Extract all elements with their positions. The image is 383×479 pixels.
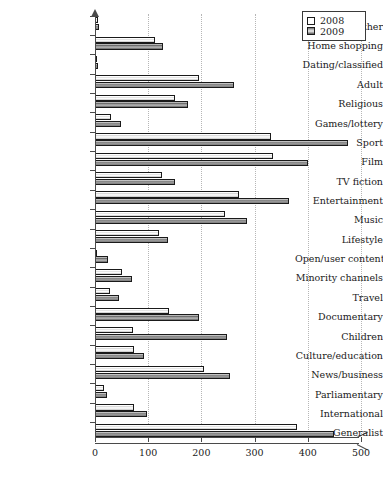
- bar-2009-music: [95, 218, 247, 224]
- category-label-dating-classified: Dating/classified: [295, 61, 383, 71]
- bar-2009-tv-fiction: [95, 179, 175, 185]
- y-tick-18: [90, 364, 95, 365]
- x-tick-label-0: 0: [92, 447, 98, 458]
- category-label-international: International: [295, 409, 383, 419]
- y-tick-7: [90, 151, 95, 152]
- y-axis-line: [95, 14, 96, 442]
- bar-2009-children: [95, 334, 227, 340]
- category-label-adult: Adult: [295, 80, 383, 90]
- y-tick-1: [90, 35, 95, 36]
- y-tick-8: [90, 170, 95, 171]
- x-tick-100: [148, 437, 149, 442]
- bar-2008-film: [95, 153, 273, 159]
- bar-2008-tv-fiction: [95, 172, 162, 178]
- bar-2009-home-shopping: [95, 43, 163, 49]
- y-tick-21: [90, 422, 95, 423]
- x-tick-300: [255, 437, 256, 442]
- y-tick-12: [90, 248, 95, 249]
- category-label-minority-channels: Minority channels: [295, 274, 383, 284]
- category-label-home-shopping: Home shopping: [295, 41, 383, 51]
- legend-item-2009: 2009: [307, 27, 361, 37]
- legend-swatch-2009-icon: [307, 27, 315, 35]
- bar-2008-news-business: [95, 366, 204, 372]
- bar-2009-games-lottery: [95, 121, 121, 127]
- x-tick-200: [201, 437, 202, 442]
- y-tick-5: [90, 112, 95, 113]
- category-label-games-lottery: Games/lottery: [295, 119, 383, 129]
- bar-2009-religious: [95, 101, 188, 107]
- legend-label-2009: 2009: [320, 27, 344, 37]
- y-tick-20: [90, 403, 95, 404]
- legend-swatch-2008-icon: [307, 17, 315, 25]
- category-label-open-user-content: Open/user content: [295, 254, 383, 264]
- bar-2008-generalist: [95, 424, 297, 430]
- bar-2009-news-business: [95, 373, 230, 379]
- category-label-travel: Travel: [295, 293, 383, 303]
- legend: 2008 2009: [302, 11, 366, 41]
- bar-2009-lifestyle: [95, 237, 168, 243]
- y-tick-19: [90, 383, 95, 384]
- x-tick-label-200: 200: [192, 447, 210, 458]
- category-label-parliamentary: Parliamentary: [295, 390, 383, 400]
- category-label-sport: Sport: [295, 138, 383, 148]
- bar-2009-international: [95, 411, 147, 417]
- bar-2009-documentary: [95, 314, 199, 320]
- y-tick-16: [90, 325, 95, 326]
- y-tick-17: [90, 345, 95, 346]
- category-label-tv-fiction: TV fiction: [295, 177, 383, 187]
- bar-2009-film: [95, 160, 308, 166]
- x-tick-label-300: 300: [246, 447, 264, 458]
- x-tick-400: [308, 437, 309, 442]
- bar-2009-culture-education: [95, 353, 144, 359]
- x-tick-0: [95, 437, 96, 442]
- legend-label-2008: 2008: [320, 16, 344, 26]
- bar-2008-culture-education: [95, 346, 134, 352]
- bar-2009-entertainment: [95, 198, 289, 204]
- y-tick-4: [90, 93, 95, 94]
- y-tick-2: [90, 54, 95, 55]
- bar-2008-minority-channels: [95, 269, 122, 275]
- bar-2008-adult: [95, 75, 199, 81]
- category-label-culture-education: Culture/education: [295, 351, 383, 361]
- y-tick-15: [90, 306, 95, 307]
- bar-2008-home-shopping: [95, 37, 155, 43]
- y-tick-13: [90, 267, 95, 268]
- y-tick-3: [90, 74, 95, 75]
- x-tick-label-500: 500: [352, 447, 370, 458]
- y-tick-6: [90, 132, 95, 133]
- x-tick-label-400: 400: [299, 447, 317, 458]
- category-label-religious: Religious: [295, 99, 383, 109]
- bar-2008-sport: [95, 133, 271, 139]
- bar-2008-documentary: [95, 308, 169, 314]
- y-tick-9: [90, 190, 95, 191]
- bar-2008-children: [95, 327, 133, 333]
- legend-item-2008: 2008: [307, 16, 361, 26]
- bar-2008-entertainment: [95, 191, 239, 197]
- x-tick-500: [361, 437, 362, 442]
- bar-2009-adult: [95, 82, 234, 88]
- bar-2009-minority-channels: [95, 276, 132, 282]
- category-label-entertainment: Entertainment: [295, 196, 383, 206]
- bar-2008-music: [95, 211, 225, 217]
- bar-chart: WeatherHome shoppingDating/classifiedAdu…: [0, 0, 383, 479]
- category-label-documentary: Documentary: [295, 312, 383, 322]
- bar-2008-religious: [95, 95, 175, 101]
- category-label-lifestyle: Lifestyle: [295, 235, 383, 245]
- category-label-film: Film: [295, 157, 383, 167]
- y-tick-11: [90, 229, 95, 230]
- y-tick-0: [90, 16, 95, 17]
- y-tick-14: [90, 287, 95, 288]
- bar-2008-parliamentary: [95, 385, 104, 391]
- y-tick-10: [90, 209, 95, 210]
- category-label-news-business: News/business: [295, 370, 383, 380]
- bar-2008-international: [95, 404, 134, 410]
- x-tick-label-100: 100: [139, 447, 157, 458]
- category-label-music: Music: [295, 216, 383, 226]
- category-label-children: Children: [295, 332, 383, 342]
- bar-2009-open-user-content: [95, 256, 108, 262]
- bar-2009-travel: [95, 295, 119, 301]
- bar-2008-travel: [95, 288, 110, 294]
- bar-2009-parliamentary: [95, 392, 107, 398]
- bar-2008-games-lottery: [95, 114, 111, 120]
- gridline-300: [255, 14, 256, 440]
